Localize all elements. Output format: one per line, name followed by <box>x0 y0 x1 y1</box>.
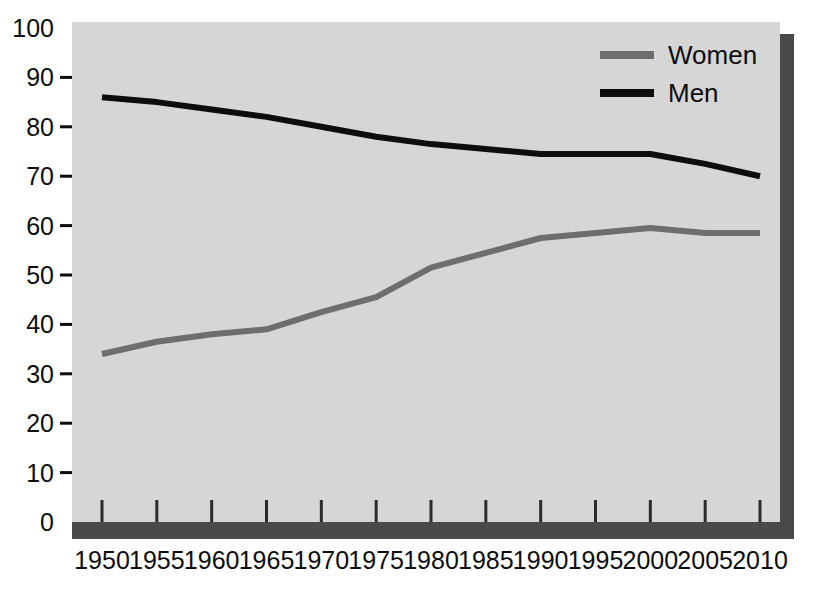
legend-label-men: Men <box>668 78 719 109</box>
y-axis-label: 70 <box>0 164 54 189</box>
y-axis-label: 10 <box>0 461 54 486</box>
y-axis-label: 90 <box>0 65 54 90</box>
y-axis-label: 40 <box>0 312 54 337</box>
y-axis-label: 60 <box>0 214 54 239</box>
legend-item-men[interactable]: Men <box>600 74 757 112</box>
legend-label-women: Women <box>668 40 757 71</box>
line-chart: 0102030405060708090100 19501955196019651… <box>0 0 834 594</box>
series-line-women <box>102 228 760 354</box>
y-axis-label: 20 <box>0 411 54 436</box>
legend-swatch-men <box>600 89 654 97</box>
legend-swatch-women <box>600 51 654 59</box>
chart-legend: Women Men <box>600 36 757 112</box>
y-axis-label: 100 <box>0 16 54 41</box>
y-axis-label: 50 <box>0 263 54 288</box>
y-axis-label: 30 <box>0 362 54 387</box>
y-axis-label: 0 <box>0 510 54 535</box>
x-axis-label: 2010 <box>715 548 805 573</box>
legend-item-women[interactable]: Women <box>600 36 757 74</box>
y-axis-label: 80 <box>0 115 54 140</box>
